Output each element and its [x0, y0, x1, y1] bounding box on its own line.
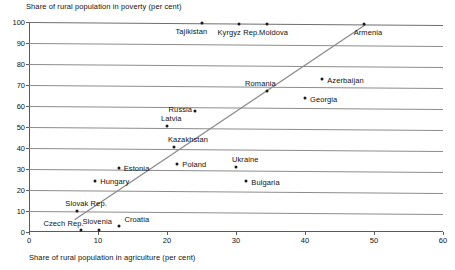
y-tick-mark: [26, 22, 29, 23]
x-tick-label: 30: [232, 236, 240, 245]
y-tick-mark: [26, 169, 29, 170]
data-point: [193, 110, 196, 113]
data-point: [166, 124, 169, 127]
data-point-label: Azerbaijan: [327, 76, 363, 85]
y-tick-mark: [26, 148, 29, 149]
x-tick-mark: [374, 232, 375, 235]
data-point: [238, 22, 241, 25]
x-tick-mark: [305, 232, 306, 235]
y-tick-label: 0: [21, 228, 25, 237]
data-point: [80, 229, 83, 232]
data-point-label: Kazakhstan: [168, 135, 208, 144]
data-point: [172, 145, 175, 148]
data-point-label: Ukraine: [232, 155, 259, 164]
x-tick-label: 60: [439, 236, 447, 245]
y-tick-mark: [26, 64, 29, 65]
data-point-label: Estonia: [124, 164, 150, 173]
data-point: [117, 166, 120, 169]
y-tick-mark: [26, 211, 29, 212]
x-tick-mark: [98, 232, 99, 235]
gridline-y: [29, 190, 443, 194]
x-axis-title: Share of rural population in agriculture…: [29, 253, 195, 262]
data-point: [266, 22, 269, 25]
data-point-label: Russia: [169, 105, 193, 114]
gridline-y: [29, 22, 443, 26]
data-point-label: Latvia: [161, 114, 182, 123]
data-point: [321, 77, 324, 80]
data-point: [94, 180, 97, 183]
data-point: [76, 210, 79, 213]
x-tick-label: 50: [370, 236, 378, 245]
scatter-chart: Share of rural population in poverty (pe…: [0, 0, 455, 270]
gridline-y: [29, 148, 443, 152]
y-tick-label: 80: [17, 60, 25, 69]
x-tick-mark: [167, 232, 168, 235]
y-tick-mark: [26, 106, 29, 107]
data-point: [118, 225, 121, 228]
gridline-y: [29, 85, 443, 89]
data-point: [362, 23, 365, 26]
y-tick-label: 40: [17, 144, 25, 153]
data-point-label: Poland: [182, 160, 206, 169]
plot-area: 01020304050607080901000102030405060Czech…: [29, 22, 443, 232]
gridline-y: [29, 106, 443, 110]
gridline-y: [29, 43, 443, 47]
data-point-label: Romania: [245, 79, 276, 88]
x-tick-label: 10: [94, 236, 102, 245]
gridline-y: [29, 64, 443, 68]
y-tick-label: 70: [17, 81, 25, 90]
data-point: [98, 229, 101, 232]
chart-title: Share of rural population in poverty (pe…: [26, 2, 182, 11]
y-tick-label: 30: [17, 165, 25, 174]
data-point-label: Czech Rep.: [43, 219, 83, 228]
x-tick-mark: [236, 232, 237, 235]
y-tick-label: 10: [17, 207, 25, 216]
data-point-label: Hungary: [100, 177, 129, 186]
x-tick-label: 20: [163, 236, 171, 245]
data-point: [176, 162, 179, 165]
data-point-label: Bulgaria: [251, 178, 279, 187]
x-tick-label: 40: [301, 236, 309, 245]
data-point-label: Croatia: [124, 215, 149, 224]
data-point-label: Slovenia: [82, 217, 112, 226]
y-tick-label: 60: [17, 102, 25, 111]
data-point: [200, 22, 203, 25]
gridline-y: [29, 127, 443, 131]
y-tick-label: 100: [12, 18, 25, 27]
data-point-label: Tajikistan: [176, 27, 208, 36]
y-tick-mark: [26, 190, 29, 191]
x-tick-mark: [443, 232, 444, 235]
gridline-y: [29, 169, 443, 173]
data-point: [266, 89, 269, 92]
data-point: [245, 180, 248, 183]
y-tick-label: 90: [17, 39, 25, 48]
y-tick-mark: [26, 85, 29, 86]
x-tick-mark: [29, 232, 30, 235]
x-tick-label: 0: [27, 236, 31, 245]
data-point-label: Moldova: [259, 28, 288, 37]
y-tick-mark: [26, 43, 29, 44]
y-tick-mark: [26, 127, 29, 128]
data-point: [235, 166, 238, 169]
data-point-label: Kyrgyz Rep.: [217, 28, 259, 37]
y-tick-label: 20: [17, 186, 25, 195]
gridline-y: [29, 211, 443, 215]
data-point-label: Armenia: [354, 28, 383, 37]
data-point-label: Georgia: [310, 95, 337, 104]
y-tick-label: 50: [17, 123, 25, 132]
data-point-label: Slovak Rep.: [65, 199, 107, 208]
data-point: [304, 96, 307, 99]
